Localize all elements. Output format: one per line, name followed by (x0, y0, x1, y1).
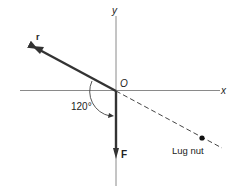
origin-label: O (120, 79, 128, 89)
angle-label: 120° (71, 102, 92, 112)
r-vector-arrow (36, 48, 116, 91)
diagram-graphics (0, 0, 241, 190)
angle-arc-arrowhead (108, 113, 114, 118)
r-arrow-head (32, 46, 44, 54)
torque-diagram: y x O r F 120° Lug nut (0, 0, 241, 190)
x-axis-label: x (221, 86, 226, 96)
lug-nut-label: Lug nut (172, 146, 204, 156)
y-axis-label: y (112, 6, 117, 16)
f-arrow-head (113, 148, 119, 159)
dashed-lever-line (116, 91, 222, 148)
lug-nut-point (199, 135, 204, 140)
r-vector-label: r (36, 33, 40, 42)
f-vector-label: F (121, 150, 127, 160)
